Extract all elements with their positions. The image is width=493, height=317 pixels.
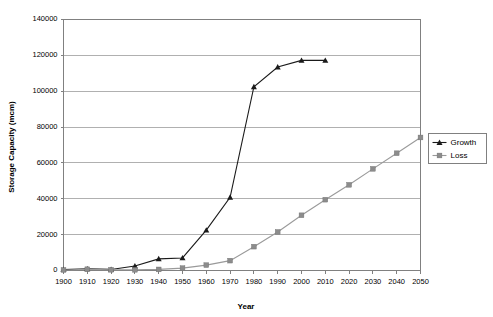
y-tick-label: 140000 [32, 14, 57, 23]
x-tick-label: 2040 [388, 277, 405, 286]
data-point-loss [204, 263, 209, 268]
y-tick-label: 120000 [32, 50, 57, 59]
y-tick-label: 80000 [37, 122, 58, 131]
x-tick-label: 2030 [365, 277, 382, 286]
data-point-loss [61, 268, 66, 273]
x-tick-label: 1930 [127, 277, 144, 286]
x-tick-label: 1980 [246, 277, 263, 286]
line-chart: 020000400006000080000100000120000140000 … [0, 0, 493, 317]
legend-swatch-marker-square-icon [437, 153, 442, 158]
series-line-loss [64, 137, 421, 269]
data-point-loss [180, 266, 185, 271]
x-tick-label: 1990 [269, 277, 286, 286]
data-point-loss [85, 267, 90, 272]
x-tick-label: 2020 [341, 277, 358, 286]
data-point-growth [227, 194, 233, 199]
data-series [61, 57, 423, 272]
x-tick-label: 1910 [79, 277, 96, 286]
gridlines [64, 20, 421, 235]
x-tick-label: 1950 [174, 277, 191, 286]
x-tick-label: 2050 [412, 277, 429, 286]
data-point-loss [156, 267, 161, 272]
y-tick-label: 60000 [37, 158, 58, 167]
x-tick-label: 2000 [293, 277, 310, 286]
x-tick-label: 1940 [150, 277, 167, 286]
data-point-loss [228, 258, 233, 263]
data-point-loss [371, 166, 376, 171]
x-tick-label: 1960 [198, 277, 215, 286]
data-point-loss [394, 151, 399, 156]
data-point-loss [109, 267, 114, 272]
legend-label: Growth [451, 138, 477, 147]
y-tick-label: 40000 [37, 194, 58, 203]
legend-label: Loss [451, 151, 468, 160]
chart-container: 020000400006000080000100000120000140000 … [0, 0, 493, 317]
y-tick-label: 20000 [37, 230, 58, 239]
x-tick-label: 1920 [103, 277, 120, 286]
data-point-loss [347, 182, 352, 187]
data-point-loss [418, 135, 423, 140]
x-tick-label: 1900 [55, 277, 72, 286]
data-point-loss [323, 197, 328, 202]
y-tick-label: 0 [53, 265, 57, 274]
data-point-loss [133, 267, 138, 272]
data-point-loss [299, 213, 304, 218]
x-tick-label: 1970 [222, 277, 239, 286]
y-tick-label: 100000 [32, 86, 57, 95]
chart-legend[interactable]: GrowthLoss [429, 134, 487, 164]
data-point-loss [252, 244, 257, 249]
x-axis-title: Year [238, 302, 255, 311]
x-axis-tick-labels: 1900191019201930194019501960197019801990… [55, 277, 429, 286]
data-point-loss [275, 230, 280, 235]
series-line-growth [64, 60, 326, 269]
y-axis-tick-labels: 020000400006000080000100000120000140000 [32, 14, 57, 274]
y-axis-title: Storage Capacity (mcm) [7, 101, 16, 193]
x-tick-label: 2010 [317, 277, 334, 286]
